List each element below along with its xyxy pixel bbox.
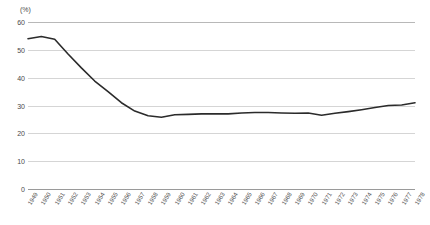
y-axis-tick-label: 0 xyxy=(21,186,25,193)
series-line xyxy=(28,22,415,189)
x-axis-tick-label: 1965 xyxy=(239,191,252,206)
x-axis-tick-label: 1964 xyxy=(226,191,239,206)
x-axis-tick-label: 1967 xyxy=(266,191,279,206)
x-axis-tick-label: 1954 xyxy=(93,191,106,206)
y-axis-tick-label: 40 xyxy=(17,74,25,81)
x-axis-tick-label: 1972 xyxy=(333,191,346,206)
x-axis-tick-label: 1949 xyxy=(26,191,39,206)
x-axis-tick-label: 1969 xyxy=(293,191,306,206)
x-axis-tick-label: 1960 xyxy=(173,191,186,206)
x-axis-labels: 1949195019511952195319541955195619571958… xyxy=(28,191,415,225)
x-axis-tick-label: 1959 xyxy=(159,191,172,206)
x-axis-tick-label: 1966 xyxy=(253,191,266,206)
x-axis-tick-label: 1953 xyxy=(79,191,92,206)
line-chart: (%) 6050403020100 1949195019511952195319… xyxy=(0,0,430,225)
y-axis-tick-label: 30 xyxy=(17,102,25,109)
x-axis-tick-label: 1978 xyxy=(413,191,426,206)
x-axis-tick-label: 1956 xyxy=(119,191,132,206)
x-axis-tick-label: 1975 xyxy=(373,191,386,206)
x-axis-tick-label: 1962 xyxy=(199,191,212,206)
x-axis-tick-label: 1958 xyxy=(146,191,159,206)
x-axis-tick-label: 1974 xyxy=(360,191,373,206)
x-axis-tick-label: 1977 xyxy=(400,191,413,206)
x-axis-tick-label: 1976 xyxy=(386,191,399,206)
gridline xyxy=(28,189,415,190)
plot-area: 6050403020100 xyxy=(28,22,415,189)
y-axis-tick-label: 50 xyxy=(17,46,25,53)
x-axis-tick-label: 1957 xyxy=(133,191,146,206)
x-axis-tick-label: 1951 xyxy=(53,191,66,206)
y-axis-unit-label: (%) xyxy=(20,6,31,13)
x-axis-tick-label: 1955 xyxy=(106,191,119,206)
x-axis-tick-label: 1970 xyxy=(306,191,319,206)
y-axis-tick-label: 20 xyxy=(17,130,25,137)
x-axis-tick-label: 1963 xyxy=(213,191,226,206)
y-axis-tick-label: 60 xyxy=(17,19,25,26)
x-axis-tick-label: 1968 xyxy=(279,191,292,206)
x-axis-tick-label: 1971 xyxy=(319,191,332,206)
x-axis-tick-label: 1973 xyxy=(346,191,359,206)
x-axis-tick-label: 1961 xyxy=(186,191,199,206)
x-axis-tick-label: 1950 xyxy=(39,191,52,206)
x-axis-tick-label: 1952 xyxy=(66,191,79,206)
y-axis-tick-label: 10 xyxy=(17,158,25,165)
